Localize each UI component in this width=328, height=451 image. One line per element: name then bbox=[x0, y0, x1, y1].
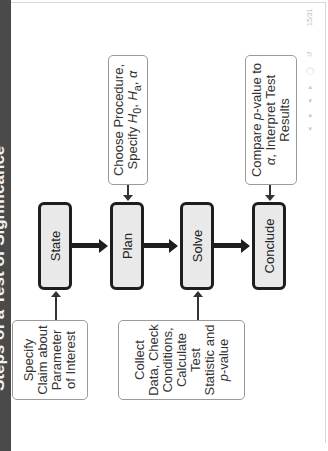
h0-symbol: H bbox=[125, 114, 140, 123]
sep2: , bbox=[125, 78, 140, 85]
step-state: State bbox=[38, 202, 72, 290]
arrow-note-to-state-icon bbox=[55, 293, 57, 320]
h0-subscript: 0 bbox=[131, 108, 143, 114]
page-number: 15/31 bbox=[306, 8, 313, 26]
note-solve-text: Collect Data, Check Conditions, Calculat… bbox=[133, 324, 231, 396]
arrow-plan-to-solve-icon bbox=[144, 243, 171, 248]
note-conclude: Compare p-value to α, Interpret Test Res… bbox=[245, 55, 297, 185]
note-conclude-suffix: , Interpret Test Results bbox=[263, 75, 292, 158]
step-plan-label: Plan bbox=[120, 233, 135, 259]
step-state-label: State bbox=[48, 231, 63, 261]
step-conclude-label: Conclude bbox=[262, 219, 277, 274]
note-conclude-mid: -value to bbox=[249, 63, 264, 113]
note-plan-line1: Choose Procedure, bbox=[111, 64, 126, 176]
arrow-solve-to-conclude-icon bbox=[214, 243, 243, 248]
step-conclude: Conclude bbox=[252, 202, 286, 290]
ha-subscript: a bbox=[131, 85, 143, 91]
alpha-symbol: α bbox=[125, 71, 140, 78]
arrow-note-to-solve-icon bbox=[197, 293, 199, 320]
p-symbol-2: p bbox=[249, 113, 264, 120]
note-plan-text: Choose Procedure, Specify H0, Ha, α bbox=[112, 64, 144, 176]
step-solve-label: Solve bbox=[190, 230, 205, 263]
step-solve: Solve bbox=[180, 202, 214, 290]
note-solve-main: Collect Data, Check Conditions, Calculat… bbox=[132, 324, 217, 396]
arrow-state-to-plan-icon bbox=[72, 243, 101, 248]
note-solve: Collect Data, Check Conditions, Calculat… bbox=[118, 320, 245, 400]
slide: Steps of a Test of Significance State Pl… bbox=[0, 0, 328, 451]
alpha-symbol-2: α bbox=[263, 158, 278, 165]
note-conclude-prefix: Compare bbox=[249, 120, 264, 177]
note-solve-pvalue: -value bbox=[216, 339, 231, 374]
note-state-text: Specify Claim about Parameter of Interes… bbox=[22, 324, 78, 396]
arrow-note-to-conclude-icon bbox=[269, 185, 271, 199]
note-conclude-text: Compare p-value to α, Interpret Test Res… bbox=[250, 59, 292, 181]
note-plan: Choose Procedure, Specify H0, Ha, α bbox=[108, 55, 148, 185]
step-plan: Plan bbox=[110, 202, 144, 290]
beamer-nav-controls[interactable]: ◂ ▸ ◂ ▸ ◯ ↺ bbox=[306, 47, 314, 131]
ha-symbol: H bbox=[125, 91, 140, 100]
note-state: Specify Claim about Parameter of Interes… bbox=[12, 320, 88, 400]
p-symbol: p bbox=[216, 374, 231, 381]
sep1: , bbox=[125, 101, 140, 108]
note-plan-prefix: Specify bbox=[125, 123, 140, 169]
title-bar: Steps of a Test of Significance bbox=[0, 0, 11, 451]
arrow-note-to-plan-icon bbox=[127, 185, 129, 199]
slide-title: Steps of a Test of Significance bbox=[0, 146, 9, 391]
